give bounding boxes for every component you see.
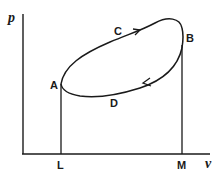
point-L-label: L: [57, 159, 64, 171]
pv-diagram: p v A B C D L M: [0, 0, 223, 174]
x-axis-label: v: [205, 156, 212, 171]
point-C-label: C: [114, 25, 122, 37]
point-M-label: M: [177, 159, 186, 171]
y-axis-label: p: [7, 10, 15, 25]
path-BDA: [61, 48, 182, 97]
point-B-label: B: [186, 32, 194, 44]
point-D-label: D: [110, 97, 118, 109]
point-A-label: A: [50, 79, 58, 91]
